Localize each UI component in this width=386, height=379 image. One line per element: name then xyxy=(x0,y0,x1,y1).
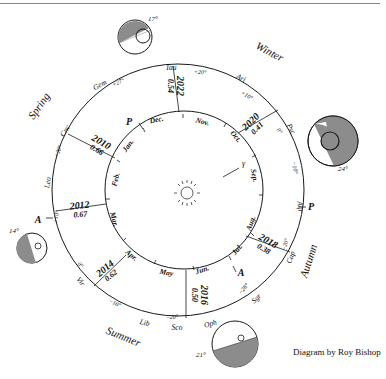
constellation-label: Gem xyxy=(91,77,108,92)
opposition-label: 20200.41 xyxy=(239,111,268,140)
opposition-label: 20140.62 xyxy=(93,258,122,286)
declination-label: −20° xyxy=(281,237,290,251)
declination-label: +20° xyxy=(194,68,208,75)
declination-label: +27° xyxy=(111,77,125,88)
mars-opposition-diagram: γ WinterSpring xyxy=(0,0,386,379)
constellation-label: Ari xyxy=(234,71,247,84)
month-label: Feb. xyxy=(109,171,121,187)
mars-view-21 xyxy=(212,321,258,367)
constellation-label: Psc xyxy=(284,121,298,136)
svg-text:0.54: 0.54 xyxy=(166,79,175,93)
month-label: May xyxy=(158,267,175,279)
constellation-label: Aqr xyxy=(295,200,305,213)
tilt-angle-label: 14° xyxy=(9,227,19,235)
vernal-equinox-line xyxy=(223,168,239,177)
opposition-label: 20120.67 xyxy=(68,199,91,220)
declination-label: −10° xyxy=(291,161,299,175)
svg-text:2016: 2016 xyxy=(199,284,210,305)
month-label: Dec. xyxy=(148,114,165,126)
constellation-label: Vir xyxy=(75,275,88,288)
constellation-label: Sgr xyxy=(249,291,263,305)
season-label: Winter xyxy=(254,39,286,64)
constellation-label: Leo xyxy=(42,176,53,190)
declination-label: 0° xyxy=(76,261,84,269)
mars-view-24 xyxy=(308,115,358,166)
season-label: Autumn xyxy=(297,242,319,280)
tilt-angle-label: 24° xyxy=(338,165,348,173)
opposition-label: 20220.54 xyxy=(166,75,186,96)
month-label: Apr. xyxy=(123,247,140,263)
svg-text:2022: 2022 xyxy=(175,75,186,96)
opposition-label: 20180.38 xyxy=(252,230,280,257)
declination-label: +10° xyxy=(240,90,254,102)
constellation-label: Lib xyxy=(138,317,151,329)
month-label: Nov. xyxy=(194,115,211,128)
declination-label: +20° xyxy=(53,144,63,158)
sun-icon xyxy=(174,180,200,206)
svg-text:0.50: 0.50 xyxy=(190,288,199,302)
mars-view-17 xyxy=(118,20,152,54)
month-label: Jan. xyxy=(120,137,136,154)
constellation-label: Sco xyxy=(172,323,183,332)
declination-label: −10° xyxy=(108,298,122,309)
svg-text:0.67: 0.67 xyxy=(73,209,89,219)
mars-view-14 xyxy=(16,233,47,264)
season-label: Summer xyxy=(105,324,144,349)
season-label: Spring xyxy=(25,90,52,121)
orbit-marker: P xyxy=(308,201,315,212)
declination-label: +10° xyxy=(52,209,60,223)
constellation-label: Tau xyxy=(166,63,177,72)
tilt-angle-label: 17° xyxy=(148,15,158,23)
opposition-label: 20160.50 xyxy=(190,284,210,305)
opposition-lines xyxy=(56,66,290,318)
constellation-label: Oph xyxy=(203,318,218,330)
tilt-angle-label: 21° xyxy=(196,351,206,359)
orbit-marker: A xyxy=(34,214,42,225)
orbit-marker: P xyxy=(126,116,133,127)
vernal-equinox-symbol: γ xyxy=(242,159,246,168)
month-label: Mar. xyxy=(108,210,121,228)
orbit-marker: A xyxy=(237,267,245,278)
month-label: Sep. xyxy=(249,168,261,183)
declination-label: −20° xyxy=(166,314,179,320)
declination-label: −28° xyxy=(237,282,250,296)
credit-text: Diagram by Roy Bishop xyxy=(293,347,381,357)
declination-label: 0° xyxy=(276,127,284,135)
month-label: Jun. xyxy=(193,263,210,276)
